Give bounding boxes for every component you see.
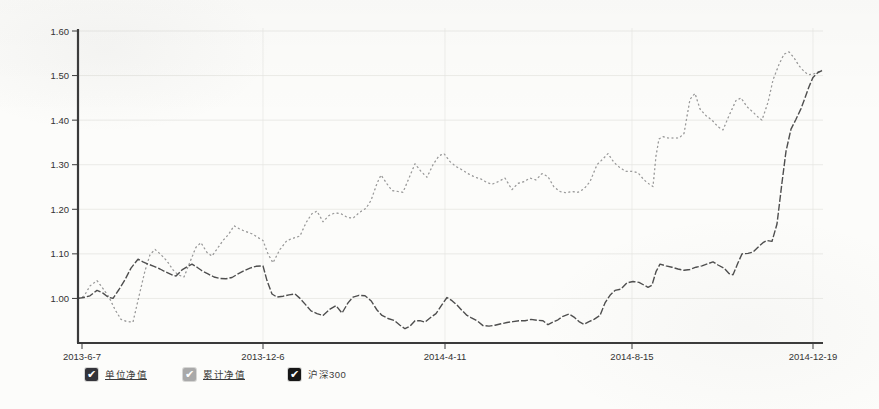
fund-performance-chart: 1.601.501.401.301.201.101.002013-6-72013…: [0, 0, 879, 409]
gridlines-horizontal: [78, 31, 823, 298]
y-tick-label: 1.60: [51, 26, 70, 37]
x-tick-label: 2014-4-11: [424, 351, 467, 362]
series-line-cumulative-nav: [78, 52, 822, 322]
checkbox-csi300[interactable]: ✔: [288, 368, 301, 381]
y-tick-label: 1.40: [51, 115, 70, 126]
y-tick-label: 1.50: [51, 70, 70, 81]
x-tick-label: 2014-8-15: [610, 351, 653, 362]
legend-label-cumulative-nav[interactable]: 累计净值: [203, 367, 245, 381]
series-line-csi300: [78, 71, 822, 329]
x-tick-label: 2014-12-19: [789, 351, 838, 362]
y-tick-label: 1.30: [51, 159, 70, 170]
legend-label-unit-nav[interactable]: 单位净值: [105, 367, 147, 381]
scanned-fund-chart-page: 1.601.501.401.301.201.101.002013-6-72013…: [0, 0, 879, 409]
y-tick-label: 1.10: [51, 248, 70, 259]
series-line-unit-nav: [78, 52, 822, 322]
x-axis-ticks-labels: 2013-6-72013-12-62014-4-112014-8-152014-…: [63, 343, 837, 362]
y-tick-label: 1.00: [51, 293, 70, 304]
legend-item-unit-nav[interactable]: ✔ 单位净值: [85, 366, 147, 382]
y-tick-label: 1.20: [51, 204, 70, 215]
check-icon: ✔: [87, 368, 96, 379]
legend-item-cumulative-nav[interactable]: ✔ 累计净值: [183, 366, 245, 382]
y-axis-ticks-labels: 1.601.501.401.301.201.101.00: [51, 26, 79, 304]
x-tick-label: 2013-6-7: [63, 351, 101, 362]
check-icon: ✔: [290, 368, 299, 379]
check-icon: ✔: [185, 368, 194, 379]
legend-item-csi300[interactable]: ✔ 沪深300: [288, 366, 346, 382]
x-tick-label: 2013-12-6: [241, 351, 284, 362]
checkbox-unit-nav[interactable]: ✔: [85, 368, 98, 381]
chart-legend: ✔ 单位净值 ✔ 累计净值 ✔ 沪深300: [0, 366, 879, 386]
legend-label-csi300[interactable]: 沪深300: [308, 367, 346, 381]
checkbox-cumulative-nav[interactable]: ✔: [183, 368, 196, 381]
axes: [77, 29, 823, 343]
